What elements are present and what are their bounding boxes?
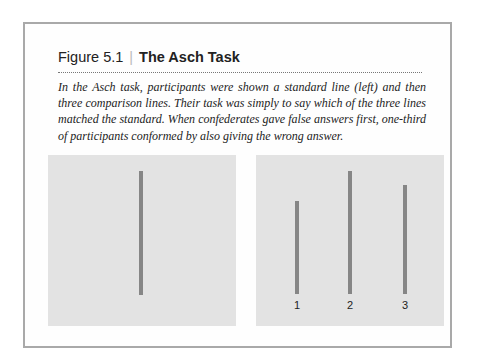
comparison-label-1: 1: [287, 299, 307, 311]
figure-title: Figure 5.1|The Asch Task: [58, 49, 240, 65]
figure-name: The Asch Task: [139, 49, 240, 65]
standard-line-panel: [48, 155, 236, 326]
figure-number: Figure 5.1: [58, 49, 123, 65]
comparison-line-1: [295, 201, 299, 294]
comparison-line-3: [403, 185, 407, 294]
dotted-divider: [58, 72, 422, 73]
figure-caption: In the Asch task, participants were show…: [58, 79, 426, 144]
figure-frame: Figure 5.1|The Asch Task In the Asch tas…: [23, 22, 452, 348]
title-separator: |: [129, 49, 133, 65]
comparison-line-2: [348, 171, 352, 294]
comparison-lines-panel: 1 2 3: [256, 155, 444, 326]
comparison-label-2: 2: [340, 299, 360, 311]
comparison-label-3: 3: [395, 299, 415, 311]
standard-line: [139, 171, 143, 295]
